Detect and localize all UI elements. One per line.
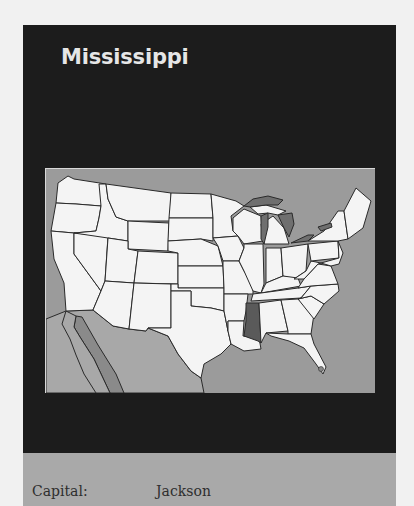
dot-icon: [319, 367, 324, 372]
info-row-capital: Capital: Jackson: [32, 483, 372, 505]
state-mississippi: [244, 303, 261, 343]
state-new-mexico: [129, 283, 171, 331]
us-map: [45, 168, 375, 393]
state-title: Mississippi: [61, 45, 189, 69]
state-wyoming: [128, 221, 169, 251]
lake-erie: [291, 235, 314, 243]
state-colorado: [134, 251, 178, 284]
state-pennsylvania: [308, 241, 339, 261]
card-header: Mississippi: [23, 25, 396, 453]
state-florida: [266, 333, 326, 374]
state-montana: [106, 184, 171, 221]
state-north-dakota: [169, 193, 213, 218]
capital-value: Jackson: [156, 483, 211, 499]
state-new-england: [344, 188, 371, 239]
us-map-svg: [46, 169, 375, 393]
state-south-dakota: [168, 218, 213, 241]
state-oregon: [51, 203, 101, 233]
state-washington: [56, 176, 106, 206]
state-card: Mississippi: [23, 25, 396, 506]
capital-label: Capital:: [32, 483, 88, 499]
lake-superior: [244, 196, 283, 207]
state-kansas: [178, 266, 224, 288]
